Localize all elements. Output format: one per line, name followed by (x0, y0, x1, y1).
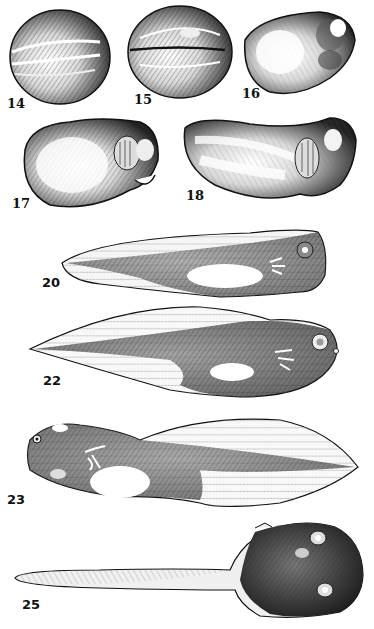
illustration-plate: 14 15 16 17 18 20 22 23 25 (0, 0, 374, 629)
stage-label-25: 25 (22, 597, 40, 612)
stage-label-15: 15 (134, 92, 152, 107)
figure-stage-16 (245, 12, 355, 93)
figure-stage-18 (184, 118, 356, 198)
figure-stage-14 (10, 10, 110, 104)
figure-stage-15 (128, 6, 232, 98)
figure-stage-25 (15, 523, 363, 617)
figure-stage-17 (24, 119, 158, 207)
plate-drawing (0, 0, 374, 629)
figure-stage-20 (62, 230, 326, 297)
figure-stage-23 (28, 419, 359, 506)
stage-label-20: 20 (42, 275, 60, 290)
stage-label-18: 18 (186, 188, 204, 203)
stage-label-17: 17 (12, 196, 30, 211)
stage-label-22: 22 (43, 373, 61, 388)
stage-label-23: 23 (7, 492, 25, 507)
stage-label-14: 14 (7, 96, 25, 111)
figure-stage-22 (30, 307, 339, 397)
stage-label-16: 16 (242, 86, 260, 101)
